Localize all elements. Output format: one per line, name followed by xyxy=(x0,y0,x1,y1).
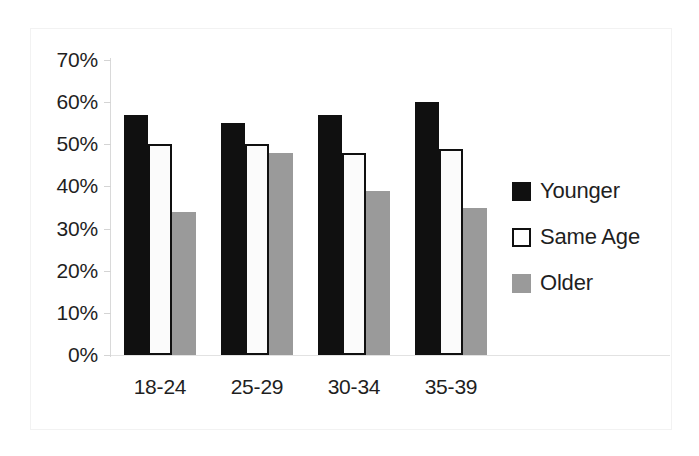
y-axis-tick-label: 30% xyxy=(32,218,98,239)
legend-item-older[interactable]: Older xyxy=(512,260,682,306)
y-axis-tick xyxy=(104,229,111,230)
legend-label: Younger xyxy=(540,180,620,202)
y-axis-tick xyxy=(104,60,111,61)
bar-same-age-25-29 xyxy=(245,144,269,355)
legend-item-younger[interactable]: Younger xyxy=(512,168,682,214)
legend-label: Same Age xyxy=(540,226,640,248)
y-axis-tick xyxy=(104,313,111,314)
filled-gray-square-icon xyxy=(512,274,531,293)
y-axis-tick xyxy=(104,186,111,187)
y-axis-tick-label: 70% xyxy=(32,49,98,70)
bar-older-25-29 xyxy=(269,153,293,355)
bar-older-30-34 xyxy=(366,191,390,355)
bar-younger-18-24 xyxy=(124,115,148,355)
bar-younger-30-34 xyxy=(318,115,342,355)
outlined-white-square-icon xyxy=(512,228,531,247)
x-axis-label-35-39: 35-39 xyxy=(403,375,499,399)
bar-same-age-18-24 xyxy=(148,144,172,355)
bar-younger-25-29 xyxy=(221,123,245,355)
bar-younger-35-39 xyxy=(415,102,439,355)
y-axis-tick-label: 40% xyxy=(32,175,98,196)
y-axis-tick xyxy=(104,102,111,103)
x-axis-label-30-34: 30-34 xyxy=(306,375,402,399)
y-axis-tick-label: 10% xyxy=(32,302,98,323)
bar-older-35-39 xyxy=(463,208,487,356)
y-axis-tick xyxy=(104,355,111,356)
chart-legend: YoungerSame AgeOlder xyxy=(512,168,682,306)
legend-item-same-age[interactable]: Same Age xyxy=(512,214,682,260)
x-axis-label-18-24: 18-24 xyxy=(112,375,208,399)
bar-same-age-35-39 xyxy=(439,149,463,356)
y-axis-labels: 70%60%50%40%30%20%10%0% xyxy=(28,0,98,456)
bar-same-age-30-34 xyxy=(342,153,366,355)
legend-label: Older xyxy=(540,272,593,294)
y-axis-tick-label: 20% xyxy=(32,260,98,281)
y-axis-tick xyxy=(104,144,111,145)
y-axis-tick-label: 60% xyxy=(32,91,98,112)
y-axis-tick xyxy=(104,271,111,272)
x-axis-label-25-29: 25-29 xyxy=(209,375,305,399)
filled-black-square-icon xyxy=(512,182,531,201)
bar-older-18-24 xyxy=(172,212,196,355)
x-axis-baseline xyxy=(110,355,670,356)
y-axis-tick-label: 0% xyxy=(32,344,98,365)
y-axis-tick-label: 50% xyxy=(32,133,98,154)
